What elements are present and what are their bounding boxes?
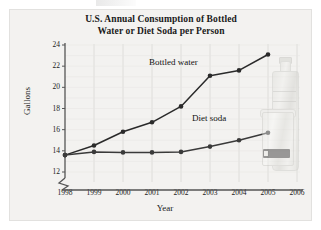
series-label-diet-soda: Diet soda bbox=[192, 113, 226, 123]
data-point bbox=[63, 153, 68, 158]
data-point bbox=[150, 120, 155, 125]
data-point bbox=[208, 73, 213, 78]
bottle-ridge bbox=[273, 101, 296, 102]
data-point bbox=[121, 130, 126, 135]
data-point bbox=[179, 104, 184, 109]
bottle-ridge bbox=[273, 91, 296, 92]
data-point bbox=[121, 150, 126, 155]
data-point bbox=[179, 150, 184, 155]
data-point bbox=[208, 144, 213, 149]
data-point bbox=[237, 138, 242, 143]
bottled-water-and-soda-photo bbox=[262, 57, 300, 171]
data-point bbox=[150, 150, 155, 155]
soda-label bbox=[263, 149, 290, 158]
figure-container: U.S. Annual Consumption of Bottled Water… bbox=[0, 0, 321, 230]
data-point bbox=[92, 143, 97, 148]
data-point bbox=[92, 150, 97, 155]
series-label-bottled-water: Bottled water bbox=[149, 57, 198, 67]
data-point bbox=[237, 68, 242, 73]
